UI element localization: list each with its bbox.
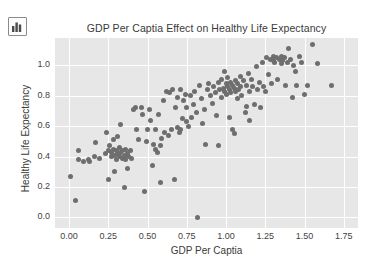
scatter-point (93, 140, 98, 145)
scatter-point (140, 112, 145, 117)
scatter-point (181, 98, 186, 103)
scatter-point (172, 177, 177, 182)
scatter-point (269, 81, 274, 86)
scatter-point (115, 134, 120, 139)
scatter-point (155, 150, 160, 155)
scatter-point (147, 107, 152, 112)
scatter-point (260, 60, 265, 65)
scatter-point (191, 102, 196, 107)
scatter-point (92, 154, 97, 159)
gridline-vertical (187, 38, 188, 228)
scatter-point (134, 127, 139, 132)
scatter-point (145, 127, 150, 132)
scatter-point (188, 93, 193, 98)
scatter-point (294, 83, 299, 88)
gridline-horizontal (55, 217, 358, 218)
scatter-point (275, 77, 280, 82)
scatter-point (288, 57, 293, 62)
scatter-point (112, 169, 117, 174)
scatter-point (291, 63, 296, 68)
bar-chart-icon[interactable] (8, 17, 27, 36)
scatter-point (238, 84, 243, 89)
scatter-point (144, 139, 149, 144)
scatter-point (302, 92, 307, 97)
gridline-horizontal (55, 126, 358, 127)
scatter-point (203, 142, 208, 147)
scatter-point (136, 137, 141, 142)
scatter-point (170, 87, 175, 92)
scatter-point (129, 156, 134, 161)
scatter-point (244, 104, 249, 109)
scatter-point (156, 112, 161, 117)
scatter-point (244, 83, 249, 88)
scatter-point (249, 77, 254, 82)
scatter-point (255, 87, 260, 92)
gridline-vertical (148, 38, 149, 228)
gridline-vertical (344, 38, 345, 228)
scatter-point (189, 115, 194, 120)
scatter-point (178, 87, 183, 92)
scatter-point (192, 89, 197, 94)
scatter-point (299, 60, 304, 65)
scatter-point (232, 131, 237, 136)
scatter-point (76, 148, 81, 153)
scatter-point (200, 121, 205, 126)
scatter-point (205, 87, 210, 92)
scatter-point (211, 84, 216, 89)
scatter-point (202, 107, 207, 112)
scatter-point (150, 163, 155, 168)
scatter-point (293, 69, 298, 74)
bar-chart-icon-glyph (11, 20, 24, 33)
scatter-point (266, 72, 271, 77)
y-axis-label: Healthy Life Expectancy (20, 44, 31, 234)
scatter-point (247, 89, 252, 94)
scatter-point (222, 69, 227, 74)
scatter-point (258, 105, 263, 110)
scatter-point (195, 215, 200, 220)
scatter-point (329, 83, 334, 88)
scatter-point (310, 42, 315, 47)
scatter-point (186, 124, 191, 129)
scatter-point (239, 93, 244, 98)
scatter-point (286, 46, 291, 51)
gridline-horizontal (55, 65, 358, 66)
scatter-point (216, 143, 221, 148)
x-tick-label: 1.00 (206, 231, 246, 241)
scatter-point (227, 115, 232, 120)
scatter-point (153, 127, 158, 132)
scatter-point (87, 159, 92, 164)
scatter-point (208, 93, 213, 98)
scatter-point (159, 136, 164, 141)
gridline-vertical (305, 38, 306, 228)
scatter-point (219, 95, 224, 100)
scatter-point (158, 180, 163, 185)
scatter-point (158, 143, 163, 148)
x-axis-label: GDP Per Captia (55, 245, 358, 256)
scatter-point (214, 113, 219, 118)
scatter-point (197, 83, 202, 88)
scatter-point (169, 127, 174, 132)
gridline-vertical (69, 38, 70, 228)
scatter-point (142, 189, 147, 194)
scatter-point (290, 95, 295, 100)
gridline-horizontal (55, 187, 358, 188)
scatter-point (297, 54, 302, 59)
scatter-point (133, 105, 138, 110)
x-tick-label: 0.75 (167, 231, 207, 241)
scatter-point (128, 148, 133, 153)
scatter-point (243, 110, 248, 115)
scatter-point (73, 198, 78, 203)
x-tick-label: 1.50 (285, 231, 325, 241)
scatter-point (173, 105, 178, 110)
scatter-point (97, 156, 102, 161)
x-tick-label: 0.50 (128, 231, 168, 241)
scatter-point (194, 110, 199, 115)
scatter-point (252, 102, 257, 107)
x-tick-label: 1.25 (245, 231, 285, 241)
scatter-point (199, 96, 204, 101)
scatter-point (263, 89, 268, 94)
scatter-point (184, 105, 189, 110)
scatter-point (246, 71, 251, 76)
gridline-vertical (226, 38, 227, 228)
scatter-point (139, 105, 144, 110)
